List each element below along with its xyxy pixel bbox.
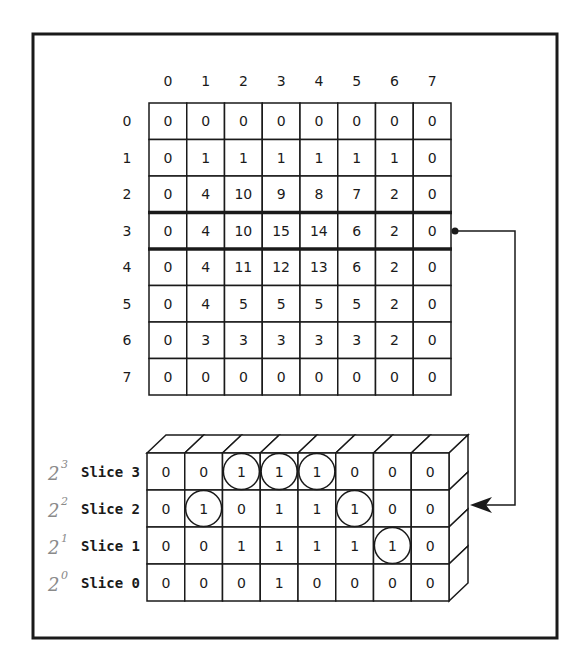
grid-cell-value: 1 — [201, 150, 210, 166]
grid-row: 00000000 — [149, 103, 451, 140]
slice-bit-value: 1 — [388, 538, 397, 554]
row-header: 1 — [123, 150, 132, 166]
grid-cell-value: 0 — [352, 369, 361, 385]
slice-bit-value: 0 — [237, 575, 246, 591]
slice-bit-value: 1 — [237, 464, 246, 480]
slice-row — [147, 564, 449, 601]
grid-cell-value: 5 — [277, 296, 286, 312]
slice-bit-value: 0 — [161, 538, 170, 554]
slice-bit-value: 0 — [426, 501, 435, 517]
grid-cell-value: 9 — [277, 186, 286, 202]
slice-bit-value: 1 — [237, 538, 246, 554]
column-header: 2 — [239, 73, 248, 89]
grid-cell-value: 2 — [390, 332, 399, 348]
grid-cell-value: 3 — [352, 332, 361, 348]
grid-cell-value: 5 — [239, 296, 248, 312]
grid-cell-value: 0 — [352, 113, 361, 129]
column-header: 3 — [277, 73, 286, 89]
grid-cell-value: 10 — [234, 223, 252, 239]
grid-row: 00000000 — [149, 359, 451, 396]
row-header: 3 — [123, 223, 132, 239]
slice-bit-value: 1 — [350, 501, 359, 517]
slice-bit-value: 1 — [275, 538, 284, 554]
grid-cell-value: 0 — [428, 113, 437, 129]
slice-label: Slice 3 — [81, 464, 140, 480]
grid-cell-value: 0 — [428, 186, 437, 202]
column-header: 5 — [352, 73, 361, 89]
grid-cell-value: 1 — [390, 150, 399, 166]
slice-bit-value: 1 — [312, 464, 321, 480]
grid-cell-value: 0 — [163, 259, 172, 275]
slice-label: Slice 2 — [81, 501, 140, 517]
grid-cell-value: 0 — [314, 113, 323, 129]
grid-cell-value: 10 — [234, 186, 252, 202]
grid-row: 03333320 — [149, 322, 451, 359]
handwritten-power-base: 2 — [47, 500, 59, 521]
row-header: 4 — [123, 259, 132, 275]
slice-bit-value: 1 — [350, 538, 359, 554]
row-headers: 01234567 — [123, 113, 132, 385]
grid-cell-value: 12 — [272, 259, 290, 275]
column-header: 4 — [314, 73, 323, 89]
grid-cell-value: 13 — [310, 259, 328, 275]
slice-bit-value: 0 — [426, 538, 435, 554]
grid-cell-value: 1 — [314, 150, 323, 166]
bit-slice-stack: 00111000010111000011111000010000 — [147, 435, 468, 601]
grid-cell-value: 8 — [314, 186, 323, 202]
grid-cell-value: 2 — [390, 259, 399, 275]
slice-bit-value: 1 — [199, 501, 208, 517]
row-header: 5 — [123, 296, 132, 312]
handwritten-power-exponent: 1 — [61, 532, 68, 545]
grid-row: 04555520 — [149, 286, 451, 323]
handwritten-power-base: 2 — [47, 463, 59, 484]
slice-bit-value: 0 — [426, 464, 435, 480]
grid-cell-value: 0 — [428, 223, 437, 239]
grid-cell-value: 6 — [352, 223, 361, 239]
grid-cell-value: 0 — [163, 332, 172, 348]
grid-cell-value: 0 — [239, 113, 248, 129]
grid-cell-value: 0 — [163, 113, 172, 129]
slice-label: Slice 1 — [81, 538, 140, 554]
grid-cell-value: 0 — [428, 332, 437, 348]
slice-row — [147, 527, 449, 564]
grid-row: 01111110 — [149, 140, 451, 177]
grid-cell-value: 4 — [201, 259, 210, 275]
handwritten-power-exponent: 0 — [61, 569, 68, 582]
column-headers: 01234567 — [163, 73, 436, 89]
row-header: 6 — [123, 332, 132, 348]
bit-slice-diagram: 01234567 01234567 0000000001111110041098… — [0, 0, 577, 663]
slice-bit-value: 0 — [426, 575, 435, 591]
grid-cell-value: 5 — [352, 296, 361, 312]
column-header: 7 — [428, 73, 437, 89]
slice-bit-value: 0 — [350, 575, 359, 591]
slice-bit-value: 0 — [199, 464, 208, 480]
row-header: 0 — [123, 113, 132, 129]
grid-cell-value: 0 — [428, 369, 437, 385]
grid-cell-value: 0 — [428, 259, 437, 275]
slice-bit-value: 1 — [312, 501, 321, 517]
slice-label: Slice 0 — [81, 575, 140, 591]
grid-cell-value: 5 — [314, 296, 323, 312]
slice-bit-value: 1 — [312, 538, 321, 554]
grid-cell-value: 0 — [390, 369, 399, 385]
slice-bit-value: 0 — [237, 501, 246, 517]
slice-row — [147, 453, 449, 490]
grid-cell-value: 4 — [201, 223, 210, 239]
grid-cell-value: 3 — [314, 332, 323, 348]
slice-bit-value: 0 — [350, 464, 359, 480]
slice-bit-value: 0 — [161, 501, 170, 517]
grid-cell-value: 0 — [163, 296, 172, 312]
grid-cell-value: 0 — [163, 150, 172, 166]
grid-cell-value: 0 — [163, 223, 172, 239]
grid-cell-value: 1 — [352, 150, 361, 166]
grid-cell-value: 1 — [239, 150, 248, 166]
slice-bit-value: 0 — [388, 464, 397, 480]
slice-labels: Slice 323Slice 222Slice 121Slice 020 — [47, 458, 140, 595]
grid-cell-value: 4 — [201, 186, 210, 202]
slice-bit-value: 0 — [312, 575, 321, 591]
slice-bit-value: 0 — [199, 575, 208, 591]
grid-cell-value: 3 — [277, 332, 286, 348]
handwritten-power-exponent: 2 — [60, 495, 68, 508]
grid-cell-value: 0 — [390, 113, 399, 129]
grid-row: 04101514620 — [149, 213, 451, 250]
